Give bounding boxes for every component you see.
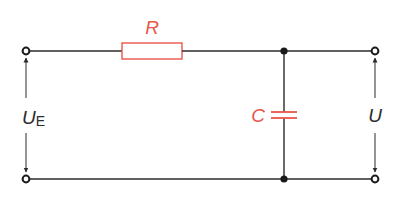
input-terminal-bottom [23,176,30,183]
resistor-symbol [122,43,182,59]
top-junction-dot [280,47,287,54]
output-voltage-label: U [368,105,382,126]
bottom-junction-dot [280,175,287,182]
input-voltage-symbol: U [22,107,36,128]
resistor-label: R [145,17,159,38]
capacitor-symbol [271,112,297,118]
input-voltage-subscript: E [36,113,45,129]
rc-circuit-diagram: R C UE U [0,0,398,200]
input-terminal-top [23,48,30,55]
capacitor-label: C [251,105,265,126]
input-voltage-label: UE [22,107,45,129]
output-terminal-top [372,48,379,55]
output-terminal-bottom [372,176,379,183]
